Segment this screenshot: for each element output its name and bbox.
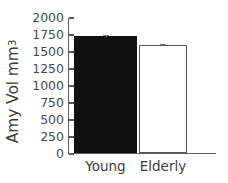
y-axis-tick-label: 2000	[26, 12, 64, 24]
y-axis-tick	[69, 68, 74, 69]
y-axis-tick-label: 0	[26, 148, 64, 160]
x-axis-spine	[68, 153, 216, 154]
x-axis-tick-labels: YoungElderly	[68, 158, 218, 178]
y-axis-tick	[69, 34, 74, 35]
y-axis-label: Amy Vol mm3	[0, 0, 26, 183]
y-axis-tick-label: 1750	[26, 29, 64, 41]
y-axis-tick-labels: 025050075010001250150017502000	[26, 12, 64, 154]
error-bar-cap-elderly	[160, 44, 166, 45]
y-axis-tick-label: 1000	[26, 80, 64, 92]
plot-area	[68, 18, 216, 154]
x-axis-label-elderly: Elderly	[128, 158, 198, 174]
y-axis-tick-label: 500	[26, 114, 64, 126]
y-axis-tick	[69, 85, 74, 86]
y-axis-tick-label: 1250	[26, 63, 64, 75]
y-axis-tick-label: 750	[26, 97, 64, 109]
y-axis-tick	[69, 17, 74, 18]
bar-young	[74, 36, 137, 153]
y-axis-tick	[69, 136, 74, 137]
y-axis-tick	[69, 102, 74, 103]
y-axis-label-text: Amy Vol mm	[4, 46, 22, 143]
y-axis-tick-label: 250	[26, 131, 64, 143]
amygdala-volume-bar-chart: Amy Vol mm3 0250500750100012501500175020…	[0, 0, 228, 183]
error-bar-cap-young	[103, 35, 109, 36]
y-axis-tick	[69, 119, 74, 120]
bar-elderly	[139, 45, 187, 153]
y-axis-tick-label: 1500	[26, 46, 64, 58]
y-axis-tick	[69, 153, 74, 154]
y-axis-tick	[69, 51, 74, 52]
